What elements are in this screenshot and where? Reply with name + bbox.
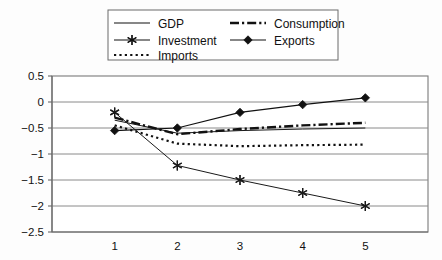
plot-area bbox=[48, 76, 428, 232]
y-tick-label: −2.5 bbox=[21, 226, 44, 238]
y-tick-label: −2 bbox=[31, 200, 44, 212]
x-tick-label: 5 bbox=[362, 240, 368, 252]
y-tick-label: −0.5 bbox=[21, 122, 44, 134]
line-chart: 0.50−0.5−1−1.5−2−2.5 12345 GDPConsumptio… bbox=[0, 0, 442, 260]
legend-label: Investment bbox=[158, 34, 217, 48]
legend-label: Exports bbox=[274, 34, 315, 48]
y-tick-label: −1.5 bbox=[21, 174, 44, 186]
legend-label: GDP bbox=[158, 17, 184, 31]
y-tick-label: 0 bbox=[38, 96, 44, 108]
legend-label: Imports bbox=[158, 49, 198, 63]
legend-label: Consumption bbox=[274, 17, 345, 31]
chart-container: 0.50−0.5−1−1.5−2−2.5 12345 GDPConsumptio… bbox=[0, 0, 442, 260]
x-tick-label: 1 bbox=[111, 240, 117, 252]
x-tick-label: 2 bbox=[174, 240, 180, 252]
chart-legend: GDPConsumptionInvestmentExportsImports bbox=[108, 10, 345, 63]
y-tick-label: −1 bbox=[31, 148, 44, 160]
y-tick-label: 0.5 bbox=[28, 70, 44, 82]
x-tick-label: 4 bbox=[299, 240, 306, 252]
x-tick-label: 3 bbox=[237, 240, 243, 252]
